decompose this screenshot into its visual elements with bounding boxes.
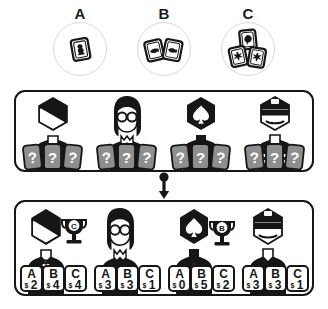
flow-arrow	[156, 172, 172, 200]
legend-label-b: B	[158, 6, 169, 21]
revealed-player-figure: C A $ 2 B $ 4	[18, 202, 88, 294]
spade-head-avatar	[180, 209, 208, 244]
svg-text:3: 3	[127, 278, 134, 292]
svg-text:?: ?	[67, 149, 78, 167]
hidden-card-group: ? ? ?	[23, 144, 83, 170]
glasses-long-hair-avatar	[114, 96, 141, 146]
hidden-player-figure: ? ? ?	[94, 92, 160, 170]
svg-text:3: 3	[275, 278, 282, 292]
revealed-hands-panel: C A $ 2 B $ 4	[14, 200, 314, 296]
down-arrow-icon	[156, 172, 172, 200]
revealed-card: B $ 3	[117, 266, 138, 292]
trophy-label: C	[71, 222, 77, 231]
trophy-icon: B	[210, 221, 234, 245]
revealed-card: A $ 3	[243, 266, 264, 292]
hidden-player-1: ? ? ?	[20, 92, 86, 170]
hidden-card-group: ? ? ?	[171, 144, 231, 170]
revealed-card: B $ 3	[265, 266, 286, 292]
revealed-card-group: A $ 2 B $ 4 C $	[21, 266, 86, 292]
hidden-player-figure: ? ? ?	[168, 92, 234, 170]
svg-text:?: ?	[122, 149, 131, 166]
revealed-player-figure: A $ 3 B $ 3 C $	[92, 202, 162, 294]
svg-text:$: $	[195, 282, 199, 290]
trophy-label: B	[219, 224, 225, 233]
svg-text:?: ?	[48, 149, 57, 166]
revealed-player-figure: A $ 3 B $ 3 C $	[240, 202, 310, 294]
svg-text:$: $	[291, 282, 295, 290]
legend-circle-b	[137, 22, 191, 76]
one-card-icon	[60, 29, 100, 69]
legend-item-b: B	[125, 6, 203, 76]
revealed-card-group: A $ 3 B $ 3 C $	[243, 266, 308, 292]
revealed-player-2: A $ 3 B $ 3 C $	[92, 202, 162, 294]
svg-text:?: ?	[215, 149, 226, 167]
svg-text:$: $	[47, 282, 51, 290]
svg-text:?: ?	[27, 149, 38, 167]
glasses-long-hair-avatar	[107, 208, 134, 261]
hidden-player-4: ? ? ?	[242, 92, 308, 170]
svg-text:5: 5	[201, 278, 208, 292]
spade-head-avatar	[187, 97, 215, 130]
svg-text:0: 0	[179, 278, 186, 292]
legend-row: A B	[0, 6, 328, 88]
svg-text:$: $	[121, 282, 125, 290]
legend-label-c: C	[242, 6, 253, 21]
legend-label-a: A	[74, 6, 85, 21]
svg-text:$: $	[143, 282, 147, 290]
revealed-card: C $ 1	[287, 266, 308, 292]
hidden-player-figure: ? ? ?	[242, 92, 308, 170]
svg-text:$: $	[217, 282, 221, 290]
trophy-icon: C	[62, 219, 86, 243]
two-cards-icon	[142, 29, 186, 69]
svg-text:$: $	[247, 282, 251, 290]
svg-text:2: 2	[31, 278, 38, 292]
svg-text:$: $	[69, 282, 73, 290]
svg-text:?: ?	[141, 149, 152, 167]
revealed-card-group: A $ 3 B $ 3 C $	[95, 266, 160, 292]
revealed-card: C $ 2	[213, 266, 234, 292]
revealed-card: C $ 4	[65, 266, 86, 292]
svg-text:3: 3	[105, 278, 112, 292]
visor-cap-avatar	[254, 209, 282, 244]
legend-item-a: A	[41, 6, 119, 76]
revealed-card: A $ 0	[169, 266, 190, 292]
revealed-player-3: B A $ 0 B $ 5	[166, 202, 236, 294]
hidden-hands-panel: ? ? ?	[14, 90, 314, 172]
svg-text:$: $	[25, 282, 29, 290]
revealed-player-1: C A $ 2 B $ 4	[18, 202, 88, 294]
hidden-card-group: ? ? ?	[97, 144, 157, 170]
svg-text:1: 1	[149, 278, 156, 292]
hidden-player-3: ? ? ?	[168, 92, 234, 170]
visor-cap-avatar	[261, 97, 289, 130]
legend-item-c: C	[209, 6, 287, 76]
hidden-player-figure: ? ? ?	[20, 92, 86, 170]
revealed-card: B $ 5	[191, 266, 212, 292]
legend-circle-a	[53, 22, 107, 76]
svg-text:1: 1	[297, 278, 304, 292]
hidden-player-2: ? ? ?	[94, 92, 160, 170]
suit-bowtie-avatar	[32, 210, 60, 244]
svg-text:$: $	[269, 282, 273, 290]
revealed-card: C $ 1	[139, 266, 160, 292]
svg-text:3: 3	[253, 278, 260, 292]
svg-text:?: ?	[289, 149, 300, 167]
svg-text:4: 4	[75, 278, 82, 292]
svg-text:?: ?	[249, 149, 260, 167]
revealed-card: A $ 3	[95, 266, 116, 292]
revealed-card: B $ 4	[43, 266, 64, 292]
suit-bowtie-avatar	[39, 98, 67, 130]
hidden-hands-row: ? ? ?	[16, 92, 312, 170]
svg-text:?: ?	[270, 149, 279, 166]
svg-text:$: $	[173, 282, 177, 290]
svg-text:?: ?	[101, 149, 112, 167]
svg-text:$: $	[99, 282, 103, 290]
svg-text:2: 2	[223, 278, 230, 292]
diagram-canvas: A B	[0, 0, 328, 309]
revealed-hands-row: C A $ 2 B $ 4	[16, 202, 312, 294]
svg-text:4: 4	[53, 278, 60, 292]
revealed-player-figure: B A $ 0 B $ 5	[166, 202, 236, 294]
three-cards-icon	[225, 27, 271, 71]
svg-text:?: ?	[175, 149, 186, 167]
revealed-player-4: A $ 3 B $ 3 C $	[240, 202, 310, 294]
revealed-card: A $ 2	[21, 266, 42, 292]
